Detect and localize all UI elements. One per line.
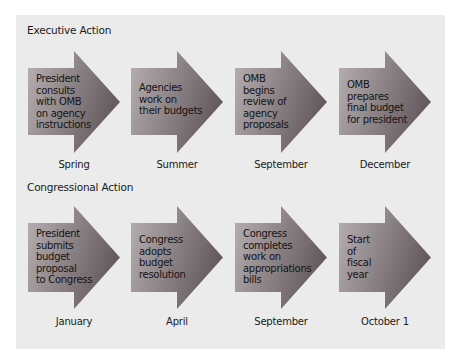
process-step: Start of fiscal year bbox=[339, 206, 443, 356]
step-description: President consults with OMB on agency in… bbox=[36, 73, 91, 131]
step-time-label: Summer bbox=[131, 159, 223, 170]
step-time-label: September bbox=[235, 316, 327, 327]
process-step: Agencies work on their budgets bbox=[131, 51, 235, 201]
step-description: OMB prepares final budget for president bbox=[347, 79, 407, 125]
step-time-label: Spring bbox=[28, 159, 120, 170]
step-description: Congress completes work on appropriation… bbox=[243, 228, 311, 286]
process-step: Congress completes work on appropriation… bbox=[235, 206, 339, 356]
step-time-label: October 1 bbox=[339, 316, 431, 327]
process-step: OMB begins review of agency proposals bbox=[235, 51, 339, 201]
executive-action-title: Executive Action bbox=[27, 24, 111, 36]
process-step: President consults with OMB on agency in… bbox=[28, 51, 132, 201]
step-description: President submits budget proposal to Con… bbox=[36, 228, 92, 286]
step-time-label: December bbox=[339, 159, 431, 170]
step-time-label: September bbox=[235, 159, 327, 170]
step-time-label: April bbox=[131, 316, 223, 327]
process-step: OMB prepares final budget for president bbox=[339, 51, 443, 201]
process-step: President submits budget proposal to Con… bbox=[28, 206, 132, 356]
step-time-label: January bbox=[28, 316, 120, 327]
step-description: Start of fiscal year bbox=[347, 234, 371, 280]
step-description: OMB begins review of agency proposals bbox=[243, 73, 288, 131]
process-step: Congress adopts budget resolution bbox=[131, 206, 235, 356]
step-description: Congress adopts budget resolution bbox=[139, 234, 186, 280]
step-description: Agencies work on their budgets bbox=[139, 82, 202, 117]
